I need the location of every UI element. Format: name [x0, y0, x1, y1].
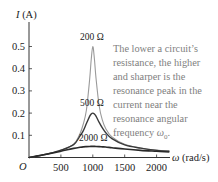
x-axis-title: ω (rad/s) [172, 152, 210, 164]
y-tick-label: 0.4 [12, 63, 26, 74]
note-line: resonance peak in the [113, 84, 218, 98]
x-tick-label: 2000 [146, 162, 167, 173]
y-axis-title: I (A) [15, 9, 37, 21]
curve-2000-ohm [29, 146, 169, 157]
note-line: current near the [113, 98, 218, 112]
omega-symbol: ω [157, 127, 164, 138]
x-tick-label: 500 [53, 162, 69, 173]
note-text: . [168, 127, 171, 138]
annotation-note: The lower a circuit’s resistance, the hi… [113, 42, 218, 144]
note-line: and sharper is the [113, 70, 218, 84]
x-tick-label: 1500 [114, 162, 135, 173]
y-tick-label: 0.1 [12, 130, 25, 141]
note-line: resistance, the higher [113, 56, 218, 70]
curve-label-500-ohm: 500 Ω [80, 98, 104, 108]
note-line: The lower a circuit’s [113, 42, 218, 56]
note-line: resonance angular [113, 112, 218, 126]
note-text: frequency [113, 127, 157, 138]
y-tick-label: 0.5 [12, 41, 25, 52]
curve-label-200-ohm: 200 Ω [80, 32, 104, 42]
curve-label-2000-ohm: 2000 Ω [79, 133, 107, 143]
y-tick-label: 0.2 [12, 108, 25, 119]
note-line: frequency ω0. [113, 126, 218, 144]
origin-label: O [19, 161, 27, 172]
x-tick-label: 1000 [82, 162, 103, 173]
y-tick-label: 0.3 [12, 85, 25, 96]
